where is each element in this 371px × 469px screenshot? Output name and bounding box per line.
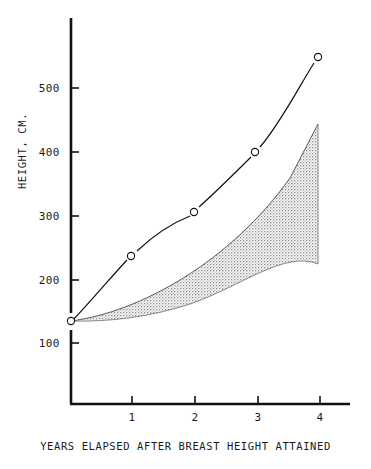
y-axis-title: HEIGHT, CM.: [16, 91, 28, 211]
data-point-marker-0: [67, 317, 74, 324]
chart-plot-area: [0, 0, 371, 469]
y-tick-label-300: 300: [28, 211, 60, 222]
shaded-band: [71, 124, 318, 321]
chart-figure: 500 400 300 200 100 1 2 3 4 YEARS ELAPSE…: [0, 0, 371, 469]
y-tick-label-400: 400: [28, 147, 60, 158]
data-point-marker-4: [314, 53, 321, 60]
x-tick-label-3: 3: [254, 412, 261, 423]
x-tick-label-2: 2: [191, 412, 198, 423]
data-point-marker-1: [127, 252, 134, 259]
y-tick-label-100: 100: [28, 338, 60, 349]
x-tick-label-1: 1: [128, 412, 135, 423]
data-point-marker-2: [190, 208, 197, 215]
y-tick-label-500: 500: [28, 83, 60, 94]
data-point-marker-3: [251, 148, 258, 155]
y-tick-label-200: 200: [28, 275, 60, 286]
x-axis-title: YEARS ELAPSED AFTER BREAST HEIGHT ATTAIN…: [0, 440, 371, 452]
x-tick-label-4: 4: [316, 412, 323, 423]
